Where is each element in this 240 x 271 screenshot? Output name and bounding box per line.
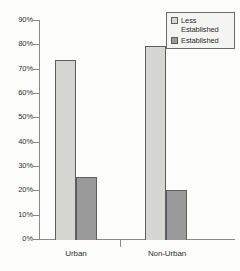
y-axis-tick-label-text: 30% bbox=[3, 162, 33, 170]
y-axis-tick-label: 60% bbox=[0, 89, 33, 97]
y-axis-tick-label-text: 80% bbox=[3, 40, 33, 48]
y-axis-tick bbox=[33, 117, 39, 118]
y-axis-tick-label-text: 70% bbox=[3, 65, 33, 73]
y-axis-tick-label: 80% bbox=[0, 40, 33, 48]
y-axis-tick bbox=[33, 93, 39, 94]
y-axis-tick-label: 90% bbox=[0, 16, 33, 24]
x-axis-label-non-urban: Non-Urban bbox=[134, 249, 200, 259]
y-axis-tick-label: 0% bbox=[0, 235, 33, 243]
legend-swatch-established-icon bbox=[171, 37, 178, 44]
legend-label-established: Established bbox=[181, 36, 219, 45]
y-axis-tick-label: 70% bbox=[0, 65, 33, 73]
y-axis-tick-label-text: 20% bbox=[3, 186, 33, 194]
legend-item-established: Established bbox=[171, 36, 231, 45]
y-axis-tick-label-text: 50% bbox=[3, 113, 33, 121]
bar-chart: 0%10%20%30%40%50%60%70%80%90% Urban Non-… bbox=[0, 0, 240, 271]
x-axis-label-urban: Urban bbox=[46, 249, 106, 259]
legend-item-less-established: Less Established bbox=[171, 16, 231, 34]
legend: Less Established Established bbox=[166, 12, 235, 49]
y-axis-tick bbox=[33, 215, 39, 216]
y-axis-tick bbox=[33, 44, 39, 45]
y-axis-tick-label-text: 10% bbox=[3, 211, 33, 219]
y-axis-tick-label-text: 0% bbox=[3, 235, 33, 243]
bar-urban-series-0 bbox=[55, 60, 76, 240]
y-axis-tick bbox=[33, 69, 39, 70]
legend-swatch-less-established-icon bbox=[171, 17, 178, 24]
y-axis-tick bbox=[33, 20, 39, 21]
y-axis-tick-label-text: 40% bbox=[3, 138, 33, 146]
y-axis-tick bbox=[33, 142, 39, 143]
bar-non-urban-series-1 bbox=[166, 190, 187, 240]
category-separator-tick bbox=[120, 240, 121, 247]
y-axis-tick-label-text: 60% bbox=[3, 89, 33, 97]
y-axis-line bbox=[39, 20, 40, 240]
bar-urban-series-1 bbox=[76, 177, 97, 240]
y-axis-tick-label-text: 90% bbox=[3, 16, 33, 24]
y-axis-tick-label: 20% bbox=[0, 186, 33, 194]
y-axis-tick-label: 10% bbox=[0, 211, 33, 219]
bar-non-urban-series-0 bbox=[145, 46, 166, 240]
legend-label-less-established: Less Established bbox=[181, 16, 219, 34]
y-axis-tick-label: 30% bbox=[0, 162, 33, 170]
y-axis-tick bbox=[33, 190, 39, 191]
y-axis-tick bbox=[33, 166, 39, 167]
y-axis-tick-label: 40% bbox=[0, 138, 33, 146]
y-axis-tick-label: 50% bbox=[0, 113, 33, 121]
y-axis-tick bbox=[33, 239, 39, 240]
